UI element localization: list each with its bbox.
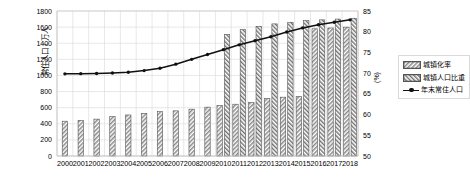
bar-urbanization-rate — [312, 29, 317, 156]
bar-urbanization-rate — [126, 115, 131, 156]
line-marker — [253, 39, 256, 42]
legend-item-urbanization-rate[interactable]: 城镇化率 — [403, 59, 465, 72]
bar-urbanization-rate — [328, 28, 333, 156]
bar-urban-population-share — [240, 30, 245, 156]
bar-urbanization-rate — [233, 104, 238, 156]
line-marker — [95, 72, 98, 75]
bar-urbanization-rate — [110, 117, 115, 156]
bar-urbanization-rate — [189, 109, 194, 156]
line-marker — [269, 35, 272, 38]
legend-marker-year-end-population — [403, 87, 419, 93]
bar-urbanization-rate — [205, 107, 210, 156]
bar-urban-population-share — [256, 26, 261, 156]
line-marker — [79, 72, 82, 75]
line-marker — [111, 71, 114, 74]
legend-swatch-urbanization-rate — [403, 61, 421, 69]
bar-urbanization-rate — [62, 121, 67, 156]
line-marker — [317, 23, 320, 26]
bar-urbanization-rate — [141, 113, 146, 156]
line-marker — [127, 71, 130, 74]
legend-label-urban-population-share: 城镇人口比重 — [423, 72, 465, 85]
legend-label-year-end-population: 年末常住人口 — [421, 84, 463, 97]
bar-urbanization-rate — [264, 98, 269, 156]
line-marker — [63, 72, 66, 75]
bar-series-urban-population-share — [224, 18, 356, 156]
line-marker — [301, 26, 304, 29]
legend-swatch-urban-population-share — [403, 74, 421, 82]
bar-urbanization-rate — [157, 112, 162, 156]
bar-urbanization-rate — [217, 105, 222, 156]
bar-urban-population-share — [224, 34, 229, 156]
line-marker — [190, 58, 193, 61]
line-marker — [285, 30, 288, 33]
legend-item-year-end-population[interactable]: 年末常住人口 — [403, 84, 465, 97]
bar-urban-population-share — [288, 22, 293, 156]
line-marker — [222, 48, 225, 51]
legend-label-urbanization-rate: 城镇化率 — [423, 59, 451, 72]
line-marker — [237, 43, 240, 46]
line-marker — [333, 21, 336, 24]
line-marker — [158, 66, 161, 69]
bar-urbanization-rate — [173, 111, 178, 156]
bar-urban-population-share — [272, 24, 277, 156]
bar-urban-population-share — [319, 20, 324, 156]
line-marker — [206, 53, 209, 56]
bar-urbanization-rate — [296, 96, 301, 156]
bar-urban-population-share — [304, 21, 309, 156]
bar-urbanization-rate — [344, 27, 349, 156]
bar-urban-population-share — [351, 18, 356, 156]
bar-urbanization-rate — [78, 120, 83, 156]
line-marker — [174, 62, 177, 65]
line-marker — [142, 69, 145, 72]
bar-urbanization-rate — [249, 103, 254, 156]
legend: 城镇化率 城镇人口比重 年末常住人口 — [403, 59, 465, 97]
bar-urban-population-share — [335, 19, 340, 156]
bar-urbanization-rate — [280, 97, 285, 156]
legend-item-urban-population-share[interactable]: 城镇人口比重 — [403, 72, 465, 85]
bar-urbanization-rate — [94, 119, 99, 156]
line-marker — [348, 18, 351, 21]
